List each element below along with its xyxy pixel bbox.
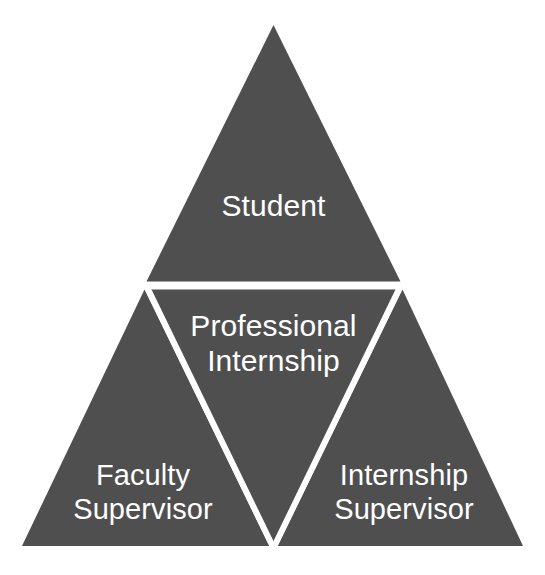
segment-faculty-supervisor-label-line2: Supervisor <box>73 493 213 525</box>
segment-internship-supervisor-label-line2: Supervisor <box>334 493 474 525</box>
triangle-diagram: Student Professional Internship Faculty … <box>0 0 545 575</box>
segment-student-label-line1: Student <box>221 189 326 222</box>
segment-professional-internship-label-line2: Internship <box>207 344 340 377</box>
segment-faculty-supervisor-label-line1: Faculty <box>96 459 191 491</box>
segment-professional-internship-label-line1: Professional <box>190 309 356 342</box>
triangle-diagram-svg: Student Professional Internship Faculty … <box>0 0 545 575</box>
segment-internship-supervisor-label-line1: Internship <box>340 459 468 491</box>
